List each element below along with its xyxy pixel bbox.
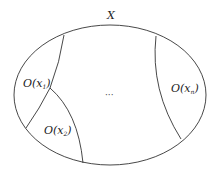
region-label-o-x1: O(x1): [23, 77, 51, 90]
region-label-o-xn: O(xn): [171, 82, 199, 95]
open-cover-diagram: X O(x1) O(x2) O(xn) ···: [0, 0, 216, 175]
region-label-o-x2: O(x2): [44, 124, 72, 137]
set-label-x: X: [106, 9, 116, 22]
ellipsis-more-regions: ···: [105, 90, 114, 100]
